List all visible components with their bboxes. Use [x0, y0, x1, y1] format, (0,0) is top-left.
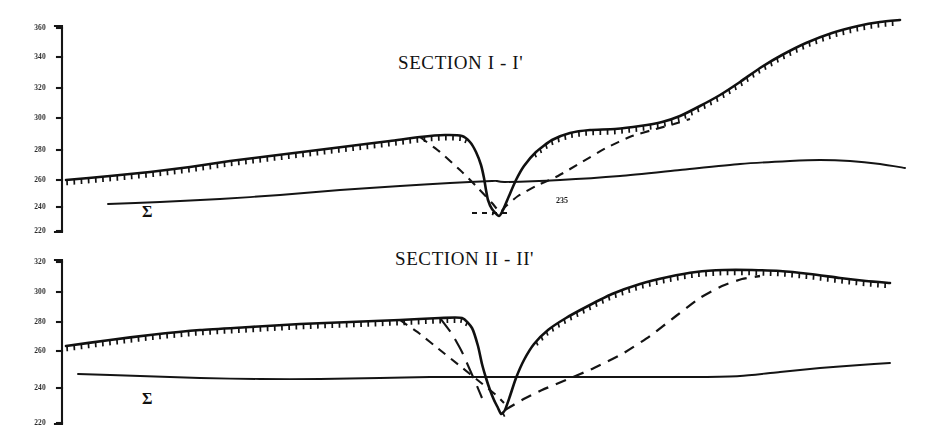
- section-2-ground-surface-line: [66, 270, 890, 414]
- axis-spine: [55, 260, 62, 424]
- section-1-sigma-label: Σ: [142, 203, 152, 221]
- y-tick-label: 260: [20, 176, 46, 184]
- section-1-subsurface-line: [108, 160, 905, 204]
- section-1-drawing: [0, 0, 932, 240]
- y-tick-label: 280: [20, 318, 46, 326]
- section-1-panel: SECTION I - I' Σ 235 3603403203002802602…: [0, 0, 932, 240]
- y-tick-label: 340: [20, 53, 46, 61]
- section-1-hachure-marks: [67, 21, 893, 216]
- section-2-panel: SECTION II - II' Σ 320300280260240220: [0, 238, 932, 436]
- y-tick-label: 280: [20, 146, 46, 154]
- y-tick-label: 240: [20, 384, 46, 392]
- y-tick-label: 240: [20, 203, 46, 211]
- section-2-sigma-label: Σ: [142, 390, 152, 408]
- figure-root: SECTION I - I' Σ 235 3603403203002802602…: [0, 0, 932, 436]
- y-tick-label: 220: [20, 227, 46, 235]
- y-tick-label: 220: [20, 419, 46, 427]
- y-tick-label: 300: [20, 114, 46, 122]
- y-tick-label: 320: [20, 258, 46, 266]
- section-1-valley-elevation-label: 235: [556, 196, 568, 205]
- section-1-title: SECTION I - I': [398, 52, 523, 74]
- y-tick-label: 260: [20, 347, 46, 355]
- section-2-reconstructed-line-left: [400, 320, 504, 403]
- section-2-collapse-scarp-line: [440, 318, 482, 398]
- section-2-y-axis: [55, 260, 62, 424]
- section-2-title: SECTION II - II': [395, 248, 534, 270]
- section-1-reconstructed-line: [420, 119, 690, 212]
- section-1-y-axis: [55, 26, 62, 232]
- y-tick-label: 300: [20, 288, 46, 296]
- section-2-reconstructed-line-right: [505, 276, 760, 410]
- section-1-ground-surface-line: [66, 20, 900, 216]
- y-tick-label: 360: [20, 24, 46, 32]
- y-tick-label: 320: [20, 84, 46, 92]
